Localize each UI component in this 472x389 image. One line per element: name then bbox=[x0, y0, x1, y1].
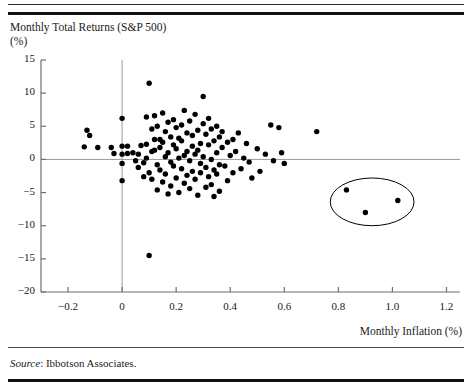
data-point bbox=[155, 124, 160, 129]
data-point bbox=[146, 170, 151, 175]
data-point bbox=[217, 162, 222, 167]
source-text: : Ibbotson Associates. bbox=[40, 357, 136, 369]
data-point bbox=[152, 147, 157, 152]
data-point bbox=[146, 253, 151, 258]
data-point bbox=[136, 165, 141, 170]
x-tick-label: 0 bbox=[102, 300, 142, 312]
x-axis-title: Monthly Inflation (%) bbox=[0, 325, 462, 337]
data-point bbox=[144, 114, 149, 119]
data-point bbox=[171, 163, 176, 168]
data-point bbox=[176, 155, 181, 160]
data-point bbox=[217, 189, 222, 194]
data-point bbox=[238, 166, 243, 171]
data-point bbox=[344, 187, 349, 192]
data-point bbox=[173, 125, 178, 130]
data-point bbox=[179, 122, 184, 127]
data-point bbox=[84, 128, 89, 133]
data-point bbox=[244, 141, 249, 146]
data-point bbox=[214, 171, 219, 176]
data-point bbox=[165, 191, 170, 196]
data-point bbox=[179, 138, 184, 143]
data-point bbox=[146, 81, 151, 86]
data-point bbox=[187, 118, 192, 123]
data-point bbox=[119, 116, 124, 121]
data-point bbox=[236, 130, 241, 135]
data-point bbox=[192, 177, 197, 182]
data-point bbox=[195, 193, 200, 198]
data-point bbox=[111, 151, 116, 156]
data-point bbox=[209, 182, 214, 187]
data-point bbox=[176, 190, 181, 195]
data-point bbox=[152, 113, 157, 118]
data-point bbox=[203, 165, 208, 170]
data-point bbox=[119, 178, 124, 183]
data-point bbox=[82, 144, 87, 149]
data-point bbox=[233, 149, 238, 154]
data-point bbox=[203, 185, 208, 190]
data-point bbox=[203, 132, 208, 137]
data-point bbox=[206, 142, 211, 147]
data-point bbox=[160, 110, 165, 115]
y-tick-label: 0 bbox=[3, 151, 35, 163]
data-point bbox=[184, 130, 189, 135]
data-point bbox=[149, 177, 154, 182]
data-point bbox=[149, 126, 154, 131]
data-point bbox=[168, 183, 173, 188]
data-point bbox=[171, 117, 176, 122]
y-tick-label: −10 bbox=[3, 218, 35, 230]
data-point bbox=[195, 147, 200, 152]
x-tick-label: 0.4 bbox=[210, 300, 250, 312]
data-point bbox=[95, 145, 100, 150]
data-point bbox=[182, 108, 187, 113]
data-point bbox=[144, 141, 149, 146]
data-point bbox=[165, 150, 170, 155]
y-tick-label: 15 bbox=[3, 52, 35, 64]
y-tick-label: −5 bbox=[3, 185, 35, 197]
data-point bbox=[198, 161, 203, 166]
data-point bbox=[109, 145, 114, 150]
data-point bbox=[219, 129, 224, 134]
data-point bbox=[187, 158, 192, 163]
data-point bbox=[87, 133, 92, 138]
data-point bbox=[255, 146, 260, 151]
x-tick-label: −0.2 bbox=[48, 300, 88, 312]
data-point bbox=[209, 157, 214, 162]
y-tick-label: −15 bbox=[3, 251, 35, 263]
x-tick-label: 0.8 bbox=[318, 300, 358, 312]
data-point bbox=[179, 166, 184, 171]
footer-rule-thin bbox=[8, 347, 464, 348]
data-point bbox=[241, 155, 246, 160]
data-point bbox=[119, 151, 124, 156]
x-tick-label: 0.2 bbox=[156, 300, 196, 312]
data-point bbox=[130, 150, 135, 155]
data-point bbox=[271, 158, 276, 163]
data-point bbox=[173, 146, 178, 151]
data-point bbox=[163, 129, 168, 134]
data-point bbox=[257, 169, 262, 174]
data-point bbox=[182, 181, 187, 186]
data-point bbox=[168, 134, 173, 139]
data-point bbox=[214, 150, 219, 155]
data-point bbox=[198, 170, 203, 175]
data-point bbox=[141, 174, 146, 179]
data-point bbox=[184, 149, 189, 154]
source-note: Source: Ibbotson Associates. bbox=[10, 357, 136, 369]
data-point bbox=[144, 155, 149, 160]
data-point bbox=[157, 145, 162, 150]
data-point bbox=[136, 151, 141, 156]
data-point bbox=[206, 174, 211, 179]
y-tick-label: 5 bbox=[3, 118, 35, 130]
data-point bbox=[230, 137, 235, 142]
data-point bbox=[190, 169, 195, 174]
data-point bbox=[363, 210, 368, 215]
data-point bbox=[160, 139, 165, 144]
data-point bbox=[119, 161, 124, 166]
data-point bbox=[190, 143, 195, 148]
data-point bbox=[209, 126, 214, 131]
data-point bbox=[190, 133, 195, 138]
data-point bbox=[200, 154, 205, 159]
data-point bbox=[125, 151, 130, 156]
x-tick-label: 1.0 bbox=[372, 300, 412, 312]
data-point bbox=[119, 143, 124, 148]
data-point bbox=[279, 150, 284, 155]
